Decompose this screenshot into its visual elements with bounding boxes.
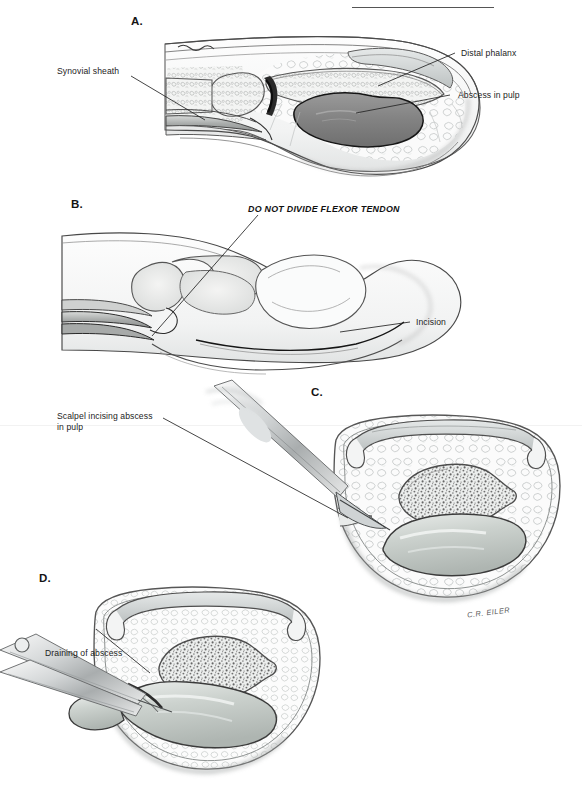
label-synovial-sheath: Synovial sheath — [57, 66, 119, 77]
panel-letter-d: D. — [39, 572, 51, 584]
label-incision: Incision — [416, 317, 446, 328]
warning-do-not-divide-flexor-tendon: DO NOT DIVIDE FLEXOR TENDON — [248, 204, 400, 214]
panel-a-illustration — [131, 37, 480, 176]
label-draining-of-abscess: Draining of abscess — [45, 648, 122, 659]
panel-b-illustration — [62, 215, 461, 374]
label-abscess-in-pulp: Abscess in pulp — [458, 90, 520, 101]
panel-c-illustration — [163, 380, 560, 600]
panel-letter-c: C. — [311, 386, 323, 398]
label-distal-phalanx: Distal phalanx — [461, 48, 516, 59]
panel-letter-b: B. — [71, 198, 83, 210]
label-scalpel-incising-abscess: Scalpel incising abscess in pulp — [57, 411, 153, 432]
panel-letter-a: A. — [131, 15, 143, 27]
figure-illustration — [0, 0, 582, 790]
panel-d-illustration — [0, 587, 320, 771]
